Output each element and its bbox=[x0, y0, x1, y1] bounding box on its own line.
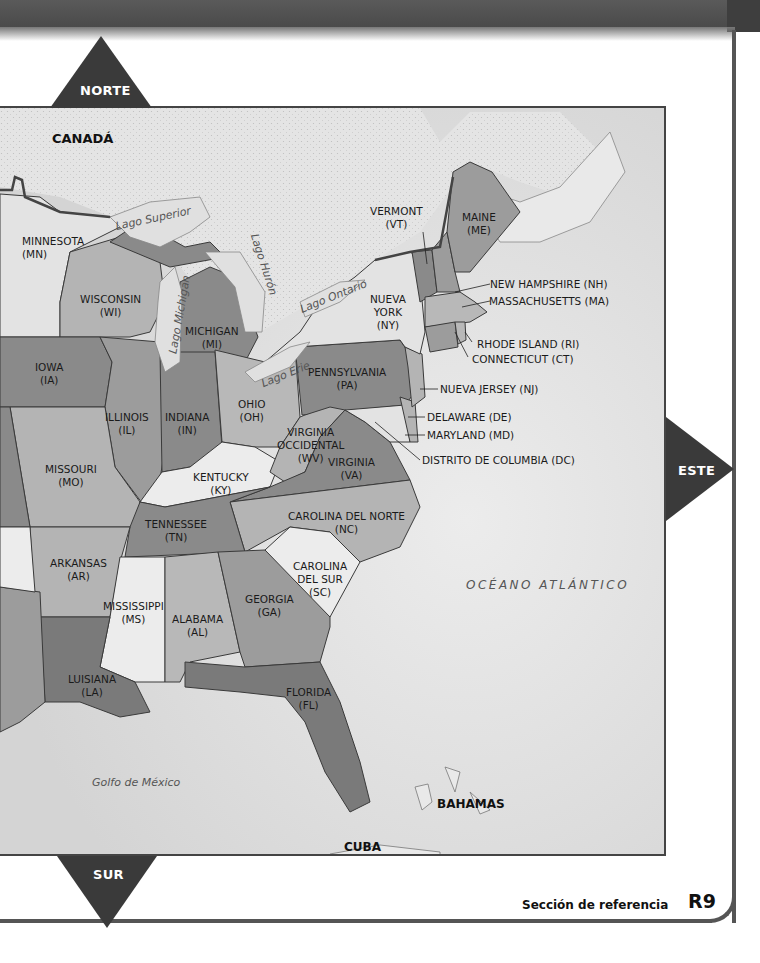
label-ms: MISSISSIPPI(MS) bbox=[103, 600, 164, 626]
label-ga: GEORGIA(GA) bbox=[245, 593, 294, 619]
label-bahamas: BAHAMAS bbox=[437, 798, 505, 811]
label-ny: NUEVAYORK(NY) bbox=[370, 293, 406, 332]
label-tn: TENNESSEE(TN) bbox=[145, 518, 207, 544]
compass-east-label: ESTE bbox=[678, 463, 715, 478]
label-la: LUISIANA(LA) bbox=[68, 673, 116, 699]
label-wi: WISCONSIN(WI) bbox=[80, 293, 141, 319]
label-mi: MICHIGAN(MI) bbox=[185, 325, 239, 351]
label-ky: KENTUCKY(KY) bbox=[193, 471, 249, 497]
footer-page-number: R9 bbox=[688, 890, 716, 912]
label-in: INDIANA(IN) bbox=[165, 411, 209, 437]
label-al: ALABAMA(AL) bbox=[172, 613, 223, 639]
label-ri: RHODE ISLAND (RI) bbox=[477, 338, 579, 351]
label-nh: NEW HAMPSHIRE (NH) bbox=[490, 278, 608, 291]
state-ct bbox=[425, 322, 458, 352]
label-dc: DISTRITO DE COLUMBIA (DC) bbox=[422, 454, 575, 467]
map-graphic bbox=[0, 108, 666, 856]
label-va: VIRGINIA(VA) bbox=[328, 456, 375, 482]
label-mn: MINNESOTA(MN) bbox=[22, 235, 84, 261]
label-ar: ARKANSAS(AR) bbox=[50, 557, 107, 583]
label-me: MAINE(ME) bbox=[462, 211, 496, 237]
label-il: ILLINOIS(IL) bbox=[105, 411, 149, 437]
label-mo: MISSOURI(MO) bbox=[45, 463, 97, 489]
compass-south-label: SUR bbox=[93, 867, 124, 882]
compass-north-label: NORTE bbox=[80, 83, 131, 98]
label-canada: CANADÁ bbox=[52, 132, 113, 145]
label-nc: CAROLINA DEL NORTE(NC) bbox=[288, 510, 405, 536]
label-atlantic-ocean: OCÉANO ATLÁNTICO bbox=[466, 579, 629, 592]
label-md: MARYLAND (MD) bbox=[427, 429, 514, 442]
map-frame: CANADÁ Lago Superior Lago Michigan Lago … bbox=[0, 106, 666, 856]
label-ma: MASSACHUSETTS (MA) bbox=[489, 295, 609, 308]
label-oh: OHIO(OH) bbox=[238, 398, 266, 424]
footer-section-label: Sección de referencia bbox=[522, 898, 668, 912]
label-gulf-of-mexico: Golfo de México bbox=[92, 776, 180, 789]
top-banner bbox=[0, 0, 760, 27]
state-ok bbox=[0, 527, 35, 592]
label-cuba: CUBA bbox=[344, 841, 381, 854]
label-de: DELAWARE (DE) bbox=[427, 411, 512, 424]
label-ct: CONNECTICUT (CT) bbox=[472, 353, 574, 366]
label-pa: PENNSYLVANIA(PA) bbox=[308, 366, 386, 392]
label-fl: FLORIDA(FL) bbox=[286, 686, 331, 712]
label-ia: IOWA(IA) bbox=[35, 361, 63, 387]
label-sc: CAROLINADEL SUR(SC) bbox=[293, 560, 347, 599]
label-nj: NUEVA JERSEY (NJ) bbox=[440, 383, 538, 396]
label-vt: VERMONT(VT) bbox=[370, 205, 423, 231]
